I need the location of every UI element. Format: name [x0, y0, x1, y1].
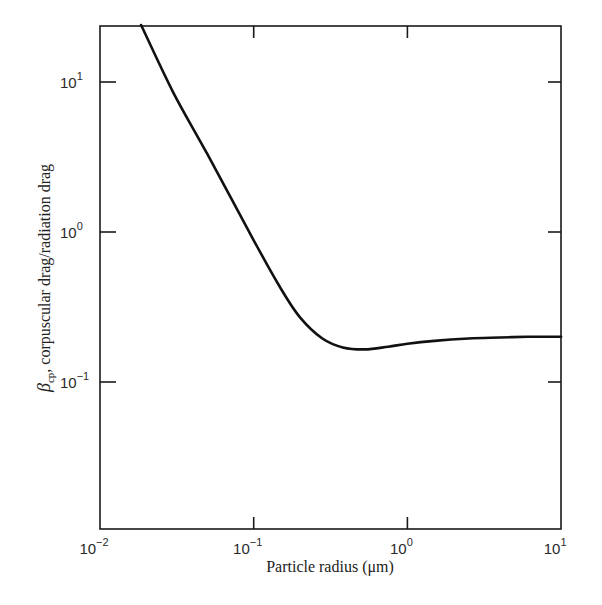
plot-frame — [100, 26, 561, 529]
y-tick-label: 101 — [60, 70, 83, 91]
y-tick-label: 10−1 — [60, 370, 89, 391]
y-axis-rest: , corpuscular drag/radiation drag — [36, 164, 54, 373]
chart: 10−210−1100101 10−1100101 Particle radiu… — [0, 0, 602, 605]
x-tick-label: 10−1 — [233, 536, 262, 557]
y-axis-symbol: β — [34, 383, 54, 393]
y-tick-label: 100 — [60, 220, 83, 241]
x-tick-label: 100 — [390, 536, 413, 557]
x-tick-label: 10−2 — [79, 536, 108, 557]
x-axis-ticks: 10−210−1100101 — [79, 26, 566, 557]
beta-cp-curve — [141, 25, 561, 349]
x-tick-label: 101 — [544, 536, 567, 557]
x-axis-title: Particle radius (μm) — [266, 558, 394, 576]
y-axis-ticks: 10−1100101 — [60, 70, 561, 391]
y-axis-subscript: cp — [44, 372, 56, 383]
y-axis-title: βcp, corpuscular drag/radiation drag — [34, 164, 56, 393]
